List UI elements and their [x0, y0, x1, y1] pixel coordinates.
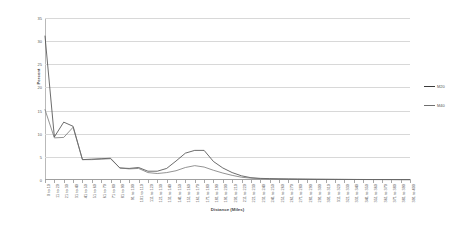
- x-tick-label: 281 to 290: [309, 184, 313, 202]
- x-tick-label: 51 to 60: [93, 184, 97, 198]
- x-tick-label: 81 to 90: [121, 184, 125, 198]
- x-tick-label: 331 to 340: [355, 184, 359, 202]
- x-axis-title: Distance (Miles): [45, 207, 410, 212]
- x-tick-mark: [92, 180, 93, 183]
- x-tick-mark: [354, 180, 355, 183]
- x-tick-mark: [251, 180, 252, 183]
- x-tick-label: 381 to 390: [402, 184, 406, 202]
- y-tick-label: 30: [22, 39, 42, 44]
- x-tick-label: 101 to 110: [140, 184, 144, 202]
- x-tick-label: 231 to 240: [262, 184, 266, 202]
- x-tick-label: 31 to 40: [75, 184, 79, 198]
- x-tick-mark: [344, 180, 345, 183]
- x-tick-label: 221 to 230: [252, 184, 256, 202]
- x-tick-mark: [148, 180, 149, 183]
- x-tick-label: 301 to 310: [327, 184, 331, 202]
- x-tick-mark: [82, 180, 83, 183]
- x-tick-mark: [167, 180, 168, 183]
- x-tick-label: 21 to 30: [65, 184, 69, 198]
- x-tick-label: 321 to 330: [346, 184, 350, 202]
- x-tick-label: 291 to 300: [318, 184, 322, 202]
- x-tick-label: 311 to 320: [337, 184, 341, 202]
- x-tick-label: 111 to 120: [150, 184, 154, 202]
- x-tick-label: 261 to 270: [290, 184, 294, 202]
- x-tick-mark: [213, 180, 214, 183]
- x-tick-label: 361 to 370: [384, 184, 388, 202]
- x-tick-label: 91 to 100: [131, 184, 135, 200]
- y-tick-label: 20: [22, 85, 42, 90]
- x-tick-label: 201 to 210: [234, 184, 238, 202]
- x-tick-mark: [298, 180, 299, 183]
- series-paths: [45, 18, 410, 180]
- x-tick-label: 191 to 200: [224, 184, 228, 202]
- legend-item-m40[interactable]: M40: [424, 101, 472, 110]
- x-tick-label: 71 to 80: [112, 184, 116, 198]
- x-tick-mark: [382, 180, 383, 183]
- x-tick-mark: [242, 180, 243, 183]
- x-tick-mark: [111, 180, 112, 183]
- x-tick-mark: [120, 180, 121, 183]
- x-tick-mark: [260, 180, 261, 183]
- x-tick-label: 171 to 180: [206, 184, 210, 202]
- legend-label: M20: [437, 84, 445, 89]
- x-tick-label: 241 to 250: [271, 184, 275, 202]
- chart-legend: M20M40: [424, 82, 472, 120]
- x-tick-mark: [157, 180, 158, 183]
- x-tick-mark: [326, 180, 327, 183]
- x-tick-mark: [288, 180, 289, 183]
- x-tick-label: 341 to 350: [365, 184, 369, 202]
- y-tick-label: 25: [22, 62, 42, 67]
- x-tick-mark: [45, 180, 46, 183]
- x-tick-label: 161 to 170: [196, 184, 200, 202]
- line-chart: Percent 05101520253035 0 to 1011 to 2021…: [0, 0, 474, 230]
- x-tick-mark: [139, 180, 140, 183]
- x-tick-mark: [223, 180, 224, 183]
- x-tick-label: 141 to 150: [178, 184, 182, 202]
- legend-item-m20[interactable]: M20: [424, 82, 472, 91]
- x-tick-label: 0 to 10: [47, 184, 51, 196]
- x-tick-mark: [176, 180, 177, 183]
- x-tick-mark: [279, 180, 280, 183]
- series-line-m40: [45, 110, 410, 180]
- x-tick-label: 181 to 190: [215, 184, 219, 202]
- y-tick-label: 0: [22, 178, 42, 183]
- x-tick-mark: [204, 180, 205, 183]
- x-tick-mark: [185, 180, 186, 183]
- y-tick-label: 10: [22, 131, 42, 136]
- x-tick-mark: [363, 180, 364, 183]
- x-tick-mark: [335, 180, 336, 183]
- legend-label: M40: [437, 103, 445, 108]
- x-tick-mark: [73, 180, 74, 183]
- x-tick-mark: [316, 180, 317, 183]
- x-tick-label: 121 to 130: [159, 184, 163, 202]
- x-tick-label: 211 to 220: [243, 184, 247, 202]
- x-tick-label: 371 to 380: [393, 184, 397, 202]
- x-tick-mark: [270, 180, 271, 183]
- x-tick-mark: [195, 180, 196, 183]
- legend-swatch: [424, 86, 435, 87]
- x-tick-label: 41 to 50: [84, 184, 88, 198]
- x-tick-mark: [101, 180, 102, 183]
- x-tick-label: 251 to 260: [281, 184, 285, 202]
- x-tick-mark: [401, 180, 402, 183]
- x-tick-label: 351 to 360: [374, 184, 378, 202]
- x-tick-mark: [410, 180, 411, 183]
- series-line-m20: [45, 36, 410, 180]
- x-tick-label: 391 to 400: [412, 184, 416, 202]
- x-tick-mark: [54, 180, 55, 183]
- x-tick-label: 151 to 160: [187, 184, 191, 202]
- y-tick-label: 35: [22, 16, 42, 21]
- x-tick-label: 61 to 70: [103, 184, 107, 198]
- x-tick-mark: [64, 180, 65, 183]
- legend-swatch: [424, 105, 435, 106]
- plot-area: 05101520253035 0 to 1011 to 2021 to 3031…: [45, 18, 410, 180]
- x-tick-mark: [391, 180, 392, 183]
- y-tick-label: 5: [22, 154, 42, 159]
- x-tick-mark: [373, 180, 374, 183]
- x-tick-mark: [129, 180, 130, 183]
- x-tick-mark: [307, 180, 308, 183]
- x-tick-label: 131 to 140: [168, 184, 172, 202]
- x-tick-label: 271 to 280: [299, 184, 303, 202]
- y-tick-label: 15: [22, 108, 42, 113]
- x-tick-label: 11 to 20: [56, 184, 60, 198]
